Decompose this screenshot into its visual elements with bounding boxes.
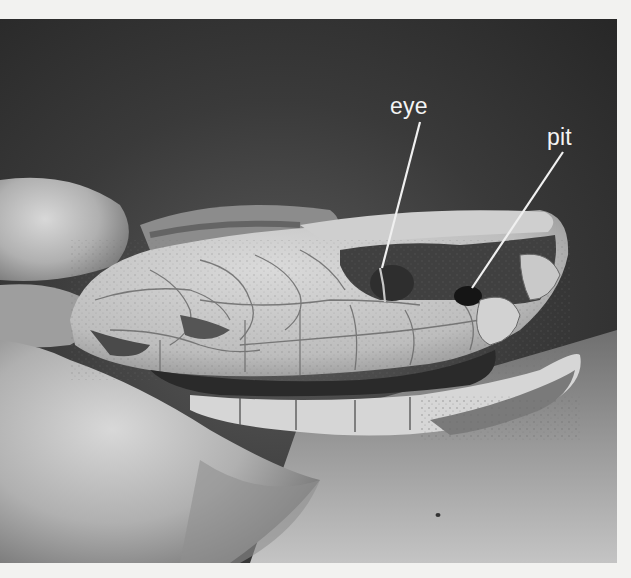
photo-illustration [0,19,617,563]
pit-label: pit [547,126,572,149]
snake-head-photo: eye pit [0,19,617,563]
eye-label: eye [390,95,428,118]
